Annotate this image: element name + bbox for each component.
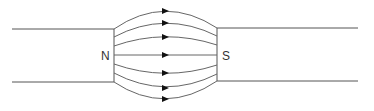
south-magnet xyxy=(217,28,358,81)
arrow-icon xyxy=(162,52,169,58)
arrow-icon xyxy=(162,34,169,40)
north-pole-label: N xyxy=(101,49,110,63)
north-magnet xyxy=(12,29,114,82)
arrow-icon xyxy=(162,8,169,14)
arrow-icon xyxy=(162,70,169,76)
arrowheads xyxy=(162,8,169,102)
south-pole-label: S xyxy=(222,49,230,63)
arrow-icon xyxy=(162,85,169,91)
arrow-icon xyxy=(162,20,169,26)
arrow-icon xyxy=(162,96,169,102)
magnetic-field-diagram: N S xyxy=(0,0,374,111)
